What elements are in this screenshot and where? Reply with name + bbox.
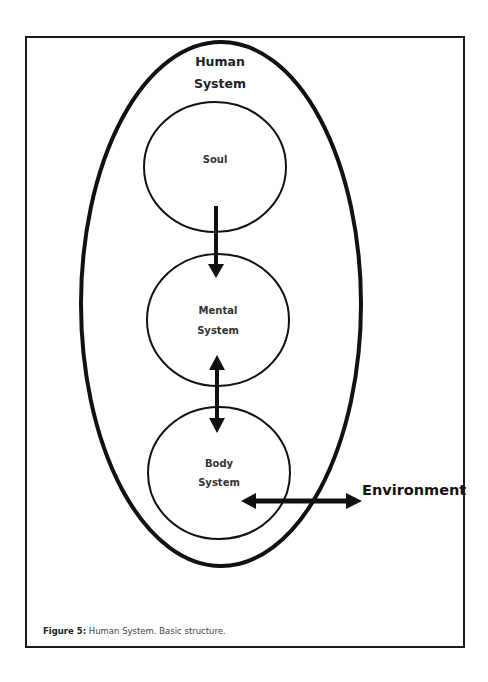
mental-label-line2: System: [168, 326, 268, 336]
mental-body-arrow: [209, 355, 225, 433]
figure-caption: Figure 5: Human System. Basic structure.: [43, 626, 226, 636]
environment-label: Environment: [362, 483, 466, 498]
body-label-line2: System: [169, 478, 269, 488]
caption-label: Figure 5:: [43, 626, 86, 636]
human-system-title-line2: System: [170, 78, 270, 91]
mental-label: Mental: [168, 306, 268, 316]
soul-label: Soul: [165, 155, 265, 165]
human-system-diagram: [0, 0, 488, 682]
human-system-title: Human: [170, 56, 270, 69]
body-label: Body: [169, 459, 269, 469]
soul-to-mental-arrow: [208, 206, 224, 278]
caption-text: Human System. Basic structure.: [86, 626, 226, 636]
body-environment-arrow: [241, 493, 362, 509]
